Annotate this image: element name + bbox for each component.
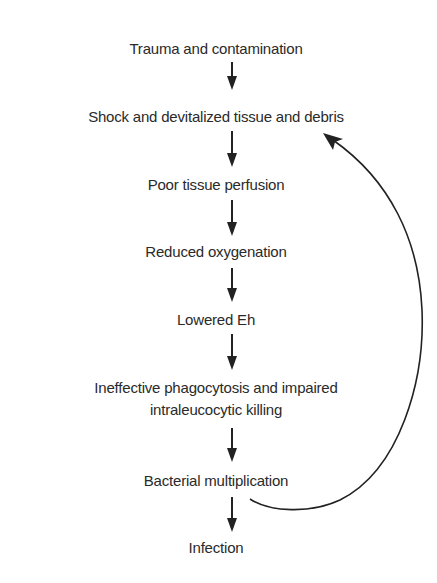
arrows-layer <box>0 0 437 583</box>
down-arrow-4 <box>227 268 237 302</box>
down-arrow-5 <box>227 334 237 370</box>
down-arrow-3 <box>227 200 237 236</box>
down-arrow-6 <box>227 428 237 462</box>
down-arrow-2 <box>227 131 237 167</box>
feedback-curved-arrow <box>250 133 422 510</box>
down-arrow-7 <box>227 497 237 532</box>
down-arrow-1 <box>227 62 237 90</box>
